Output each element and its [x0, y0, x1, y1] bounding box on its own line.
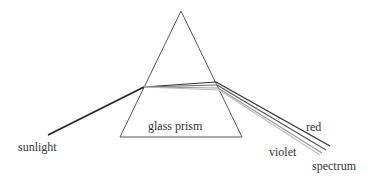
spectrum-label: spectrum: [312, 159, 357, 173]
violet-label: violet: [269, 145, 297, 159]
red-label: red: [306, 120, 321, 134]
mid-ray-1: [217, 85, 326, 150]
glass-prism-label: glass prism: [148, 119, 203, 133]
incident-sunlight-ray: [48, 87, 144, 135]
prism-dispersion-diagram: glass prism sunlight red violet spectrum: [0, 0, 374, 182]
internal-rays: [144, 82, 219, 90]
red-ray: [216, 82, 330, 146]
sunlight-label: sunlight: [18, 140, 57, 154]
